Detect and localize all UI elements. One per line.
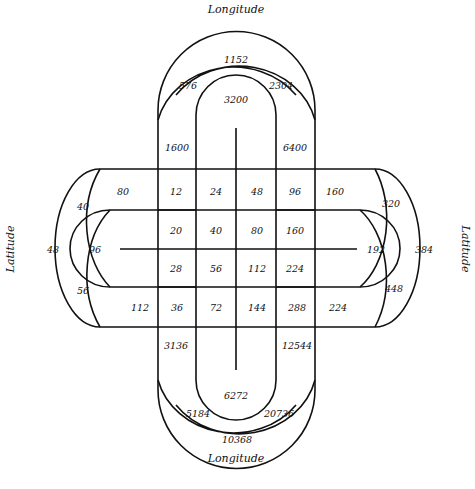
value: 36: [171, 302, 183, 313]
value: 144: [248, 302, 266, 313]
value: 6400: [283, 142, 307, 153]
value: 384: [415, 244, 433, 255]
value: 3200: [224, 94, 248, 105]
value: 576: [179, 80, 197, 91]
value: 48: [46, 244, 59, 255]
value: 28: [169, 263, 182, 274]
value: 224: [328, 302, 347, 313]
value: 2304: [268, 80, 293, 91]
outer-horizontal-band: [55, 169, 420, 327]
value: 24: [209, 186, 222, 197]
value: 56: [210, 263, 222, 274]
left-latitude-label: Latitude: [4, 225, 17, 273]
value: 1152: [224, 54, 248, 65]
value: 160: [286, 225, 304, 236]
value: 10368: [222, 434, 252, 445]
value: 224: [285, 263, 304, 274]
grid-lines: [120, 128, 357, 370]
value: 40: [209, 225, 222, 236]
value: 448: [384, 283, 403, 294]
value: 112: [131, 302, 149, 313]
value: 20: [169, 225, 182, 236]
value: 6272: [224, 390, 248, 401]
value: 192: [367, 244, 385, 255]
value: 96: [289, 186, 301, 197]
top-longitude-label: Longitude: [207, 3, 265, 16]
value: 3136: [164, 340, 188, 351]
value: 56: [77, 285, 89, 296]
value: 80: [251, 225, 263, 236]
value: 1600: [165, 142, 189, 153]
value: 96: [89, 244, 101, 255]
value: 40: [76, 201, 89, 212]
latitude-longitude-diagram: Longitude Longitude Latitude Latitude 11…: [0, 0, 475, 489]
value: 5184: [186, 408, 210, 419]
value: 320: [382, 198, 400, 209]
value: 48: [250, 186, 263, 197]
value: 12: [170, 186, 182, 197]
value: 288: [287, 302, 306, 313]
value: 72: [210, 302, 222, 313]
value: 12544: [282, 340, 312, 351]
right-latitude-label: Latitude: [459, 225, 472, 273]
value: 20736: [263, 408, 294, 419]
bottom-crossing-arcs: [158, 380, 315, 434]
value: 112: [248, 263, 266, 274]
value: 80: [117, 186, 129, 197]
bottom-longitude-label: Longitude: [207, 452, 265, 465]
value: 160: [326, 186, 344, 197]
